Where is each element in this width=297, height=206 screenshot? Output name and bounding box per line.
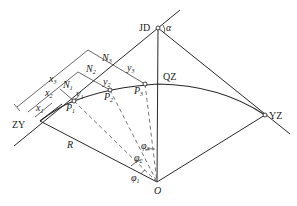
label-zy: ZY xyxy=(12,119,25,130)
label-alpha: α xyxy=(166,22,172,33)
label-n2: N2 xyxy=(85,63,96,75)
label-y2: y2 xyxy=(102,76,110,88)
label-p1: P1 xyxy=(65,102,75,114)
radius-yz xyxy=(157,115,265,182)
label-n3: N3 xyxy=(101,52,112,64)
tangent-line-zy-jd xyxy=(14,10,180,146)
dashed-radius-p2 xyxy=(110,90,157,182)
label-x2: x2 xyxy=(44,87,52,99)
label-x1: x1 xyxy=(35,102,43,114)
label-x3: x3 xyxy=(48,73,56,85)
point-p3 xyxy=(143,82,147,86)
label-p3: P3 xyxy=(133,85,143,97)
label-qz: QZ xyxy=(163,71,176,82)
phi1-arc xyxy=(141,170,145,174)
label-o: O xyxy=(154,185,161,196)
point-jd xyxy=(156,26,160,30)
label-phi2: φ2 xyxy=(134,152,143,164)
label-jd: JD xyxy=(139,22,150,33)
label-n1: N1 xyxy=(62,79,73,91)
label-r: R xyxy=(66,139,73,150)
label-y3: y3 xyxy=(126,62,134,74)
label-phi3: φ3 xyxy=(141,140,150,152)
curve-layout-diagram: JD α QZ YZ ZY O R P1 P2 P3 N3 N2 N1 y3 y… xyxy=(0,0,297,206)
bisector-line xyxy=(157,28,158,182)
point-p1 xyxy=(72,99,76,103)
dashed-radius-p3 xyxy=(145,84,157,182)
label-phi1: φ1 xyxy=(131,172,140,184)
label-yz: YZ xyxy=(269,110,282,121)
point-yz xyxy=(263,113,267,117)
